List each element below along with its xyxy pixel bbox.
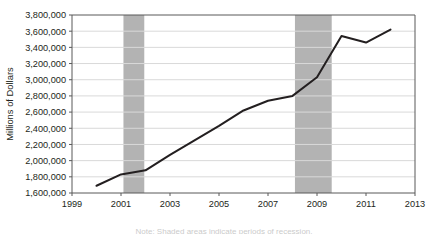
y-axis-tick-label: 1,800,000 xyxy=(25,172,66,182)
recession-band-2008 xyxy=(295,15,332,193)
x-axis-tick-label: 2005 xyxy=(209,199,229,209)
x-axis-tick-label: 2003 xyxy=(160,199,180,209)
y-axis-tick-label: 3,200,000 xyxy=(25,59,66,69)
y-axis-tick-label: 2,400,000 xyxy=(25,124,66,134)
line-chart: 3,800,0003,600,0003,400,0003,200,0003,00… xyxy=(0,0,448,234)
y-axis-tick-label: 3,800,000 xyxy=(25,10,66,20)
figure-caption: Note: Shaded areas indicate periods of r… xyxy=(0,227,448,234)
chart-figure: 3,800,0003,600,0003,400,0003,200,0003,00… xyxy=(0,0,448,234)
x-axis-tick-label: 2001 xyxy=(111,199,131,209)
x-axis-tick-label: 2013 xyxy=(405,199,425,209)
x-axis-ticks: 19992001200320052007200920112013 xyxy=(62,193,425,209)
y-axis-title: Millions of Dollars xyxy=(4,67,15,141)
x-axis-tick-label: 2011 xyxy=(356,199,376,209)
y-axis-tick-label: 3,600,000 xyxy=(25,27,66,37)
x-axis-tick-label: 2009 xyxy=(307,199,327,209)
y-axis-tick-label: 2,000,000 xyxy=(25,156,66,166)
figure-caption-text: Note: Shaded areas indicate periods of r… xyxy=(0,227,448,234)
y-axis-ticks: 3,800,0003,600,0003,400,0003,200,0003,00… xyxy=(25,10,72,198)
y-axis-tick-label: 3,000,000 xyxy=(25,75,66,85)
y-axis-tick-label: 2,200,000 xyxy=(25,140,66,150)
y-axis-tick-label: 3,400,000 xyxy=(25,43,66,53)
y-axis-tick-label: 2,800,000 xyxy=(25,91,66,101)
x-axis-tick-label: 1999 xyxy=(62,199,82,209)
y-axis-tick-label: 1,600,000 xyxy=(25,188,66,198)
x-axis-tick-label: 2007 xyxy=(258,199,278,209)
y-axis-tick-label: 2,600,000 xyxy=(25,107,66,117)
recession-band-2001 xyxy=(123,15,144,193)
